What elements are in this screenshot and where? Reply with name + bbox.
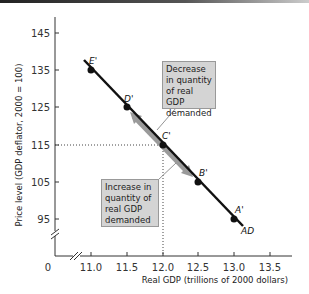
point-label-a: A'	[234, 205, 244, 215]
point-c	[160, 142, 167, 149]
point-b	[195, 179, 202, 186]
x-tick-label: 13.5	[259, 262, 281, 273]
y-tick-label: 95	[37, 214, 50, 225]
point-a	[231, 216, 238, 223]
y-tick-label: 115	[31, 140, 50, 151]
point-label-d: D'	[124, 94, 133, 104]
point-label-b: B'	[199, 168, 208, 178]
point-label-e: E'	[89, 56, 97, 66]
x-tick-label: 12.5	[187, 262, 209, 273]
y-tick-label: 105	[31, 177, 50, 188]
x-tick-label: 12.0	[152, 262, 174, 273]
y-tick-label: 135	[31, 65, 50, 76]
x-axis-title: Real GDP (trillions of 2000 dollars)	[142, 275, 288, 285]
x-ticks	[91, 252, 270, 256]
y-tick-label: 125	[31, 102, 50, 113]
callout-decrease: Decrease in quantity of real GDP demande…	[162, 61, 216, 109]
x-tick-label: 11.5	[116, 262, 138, 273]
chart: 145 135 125 115 105 95 0 11.0 11.5 12.0 …	[0, 0, 309, 294]
callout-increase: Increase in quantity of real GDP demande…	[101, 179, 159, 227]
x-tick-label: 11.0	[80, 262, 102, 273]
point-d	[124, 104, 131, 111]
y-tick-label: 145	[31, 28, 50, 39]
curve-label-ad: AD	[240, 226, 254, 236]
point-e	[88, 67, 95, 74]
y-ticks	[55, 33, 59, 219]
origin-label: 0	[45, 262, 51, 273]
y-axis-title: Price level (GDP deflator, 2000 = 100)	[14, 64, 24, 227]
point-label-c: C'	[162, 131, 171, 141]
x-tick-label: 13.0	[223, 262, 245, 273]
callout-leader-increase	[158, 163, 176, 180]
